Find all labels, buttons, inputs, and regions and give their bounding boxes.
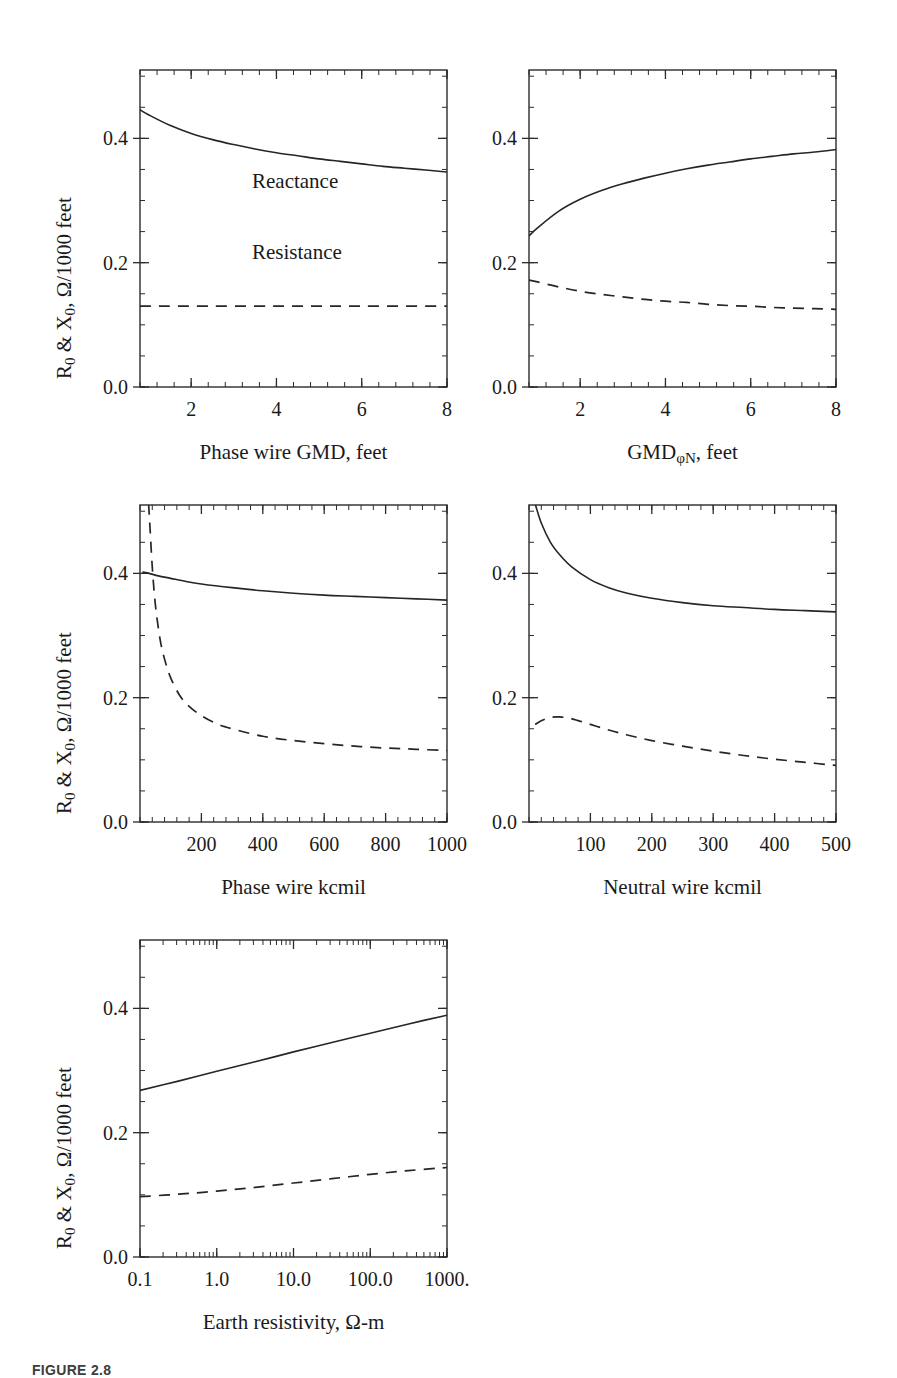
- y-tick-label: 0.2: [492, 687, 517, 709]
- x-tick-label: 300: [698, 833, 728, 855]
- x-tick-label: 1000.: [425, 1268, 470, 1290]
- x-tick-label: 200: [186, 833, 216, 855]
- series-reactance-solid: [140, 110, 447, 172]
- series-resistance-dashed: [529, 280, 836, 309]
- x-tick-label: 100.0: [348, 1268, 393, 1290]
- y-tick-label: 0.2: [103, 1122, 128, 1144]
- y-tick-label: 0.4: [492, 562, 517, 584]
- y-tick-label: 0.4: [103, 997, 128, 1019]
- x-tick-label: 400: [760, 833, 790, 855]
- y-tick-label: 0.0: [492, 376, 517, 398]
- plot-frame: [140, 940, 447, 1257]
- y-tick-label: 0.2: [103, 687, 128, 709]
- x-tick-label: 500: [821, 833, 851, 855]
- y-tick-label: 0.4: [103, 127, 128, 149]
- y-tick-label: 0.0: [103, 811, 128, 833]
- x-axis-title: Earth resistivity, Ω-m: [140, 1312, 447, 1333]
- y-tick-label: 0.0: [103, 376, 128, 398]
- figure-caption: FIGURE 2.8: [32, 1362, 111, 1378]
- plot-frame: [529, 505, 836, 822]
- y-tick-label: 0.4: [492, 127, 517, 149]
- x-axis-title: GMDφN, feet: [529, 442, 836, 466]
- x-tick-label: 8: [831, 398, 841, 420]
- x-axis-title: Phase wire kcmil: [140, 877, 447, 898]
- panel-neutral-wire-kcmil: 1002003004005000.00.20.4: [505, 481, 860, 880]
- series-reactance-solid: [529, 150, 836, 236]
- x-tick-label: 0.1: [128, 1268, 153, 1290]
- series-reactance-solid: [143, 572, 447, 600]
- x-tick-label: 4: [660, 398, 670, 420]
- x-tick-label: 2: [186, 398, 196, 420]
- x-tick-label: 2: [575, 398, 585, 420]
- series-reactance-solid: [535, 504, 836, 612]
- x-axis-title: Neutral wire kcmil: [529, 877, 836, 898]
- x-tick-label: 200: [637, 833, 667, 855]
- y-tick-label: 0.4: [103, 562, 128, 584]
- x-axis-title: Phase wire GMD, feet: [140, 442, 447, 463]
- y-tick-label: 0.2: [492, 252, 517, 274]
- x-tick-label: 1.0: [204, 1268, 229, 1290]
- y-axis-title: R0 & X0, Ω/1000 feet: [54, 1067, 78, 1249]
- y-tick-label: 0.0: [492, 811, 517, 833]
- x-tick-label: 8: [442, 398, 452, 420]
- series-reactance-solid: [140, 1015, 447, 1090]
- panel-gmd-phi-n: 24680.00.20.4: [505, 46, 860, 445]
- x-tick-label: 600: [309, 833, 339, 855]
- plot-frame: [140, 70, 447, 387]
- resistance-annotation: Resistance: [252, 240, 342, 265]
- series-resistance-dashed: [140, 1167, 447, 1196]
- x-tick-label: 4: [271, 398, 281, 420]
- plot-frame: [140, 505, 447, 822]
- y-axis-title: R0 & X0, Ω/1000 feet: [54, 197, 78, 379]
- series-resistance-dashed: [535, 717, 836, 766]
- series-resistance-dashed: [149, 504, 447, 751]
- y-axis-title: R0 & X0, Ω/1000 feet: [54, 632, 78, 814]
- x-tick-label: 6: [746, 398, 756, 420]
- reactance-annotation: Reactance: [252, 169, 338, 194]
- panel-phase-wire-kcmil: 20040060080010000.00.20.4: [116, 481, 471, 880]
- x-tick-label: 10.0: [276, 1268, 311, 1290]
- y-tick-label: 0.2: [103, 252, 128, 274]
- panel-earth-resistivity: 0.11.010.0100.01000.0.00.20.4: [116, 916, 471, 1315]
- x-tick-label: 6: [357, 398, 367, 420]
- x-tick-label: 1000: [427, 833, 467, 855]
- x-tick-label: 100: [575, 833, 605, 855]
- y-tick-label: 0.0: [103, 1246, 128, 1268]
- x-tick-label: 800: [371, 833, 401, 855]
- x-tick-label: 400: [248, 833, 278, 855]
- plot-frame: [529, 70, 836, 387]
- figure-root: 24680.00.20.4Phase wire GMD, feetR0 & X0…: [0, 0, 897, 1378]
